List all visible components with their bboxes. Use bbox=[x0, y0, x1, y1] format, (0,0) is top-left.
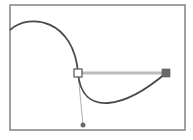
anchor-point[interactable] bbox=[74, 69, 82, 77]
diagram-frame bbox=[10, 5, 185, 130]
bezier-diagram-canvas bbox=[0, 0, 193, 140]
handle-end-square[interactable] bbox=[162, 69, 170, 77]
handle-end-dot[interactable] bbox=[81, 123, 86, 128]
